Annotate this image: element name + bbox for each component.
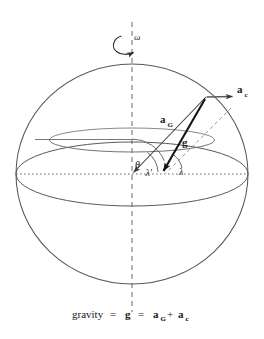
theta-label: θ — [135, 159, 140, 170]
gravity-sphere-diagram: ω a c a — [0, 0, 264, 339]
a-c-symbol: a — [237, 83, 243, 95]
a-G-label-group: a G — [160, 113, 174, 129]
a-G-symbol: a — [160, 113, 166, 125]
caption-a-G-symbol: a — [153, 308, 159, 320]
radial-reference-dashed-line — [166, 108, 231, 173]
a-c-vector-arrow — [207, 97, 233, 98]
a-c-label-group: a c — [237, 83, 248, 99]
caption-group: gravity = g = a G + a c — [72, 308, 189, 323]
caption-g-symbol: g — [125, 308, 131, 320]
caption-gravity-word: gravity — [72, 308, 104, 320]
figure-container: ω a c a — [0, 0, 264, 339]
a-c-subscript: c — [245, 91, 248, 99]
caption-equals-2: = — [138, 308, 144, 320]
lambda-label: λ — [178, 166, 184, 177]
caption-a-c-subscript: c — [186, 315, 189, 323]
a-G-subscript: G — [168, 121, 174, 129]
caption-equals-1: = — [110, 308, 116, 320]
caption-a-G-subscript: G — [161, 315, 167, 323]
caption-a-c-symbol: a — [178, 308, 184, 320]
lambda-prime-label: λ' — [145, 167, 153, 178]
g-symbol-label: g — [182, 136, 188, 148]
omega-label: ω — [134, 32, 140, 42]
rotation-direction-arrow — [113, 36, 133, 54]
caption-plus: + — [167, 308, 173, 320]
